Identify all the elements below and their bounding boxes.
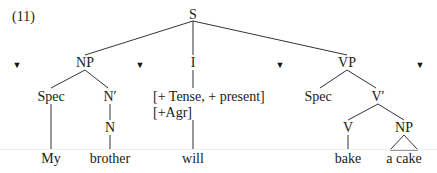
- node-i-features-line2: [+Agr]: [153, 105, 192, 120]
- syntax-tree-diagram: (11) S ▼ ▼ ▼ ▼ NP I VP Spec N′ [+ Tense,…: [0, 0, 437, 173]
- leaf-my: My: [41, 151, 60, 166]
- branch-vbar-v: [348, 104, 378, 120]
- branch-vp-spec: [320, 70, 347, 88]
- branch-np-nbar: [85, 70, 108, 88]
- node-n-bar: N′: [103, 89, 116, 104]
- example-number: (11): [12, 9, 35, 24]
- branch-s-vp: [193, 21, 347, 55]
- tree-branches: [0, 0, 437, 173]
- marker-triangle-icon: ▼: [276, 60, 285, 70]
- node-vp: VP: [338, 55, 356, 70]
- leaf-a-cake: a cake: [386, 151, 421, 166]
- node-i-features-line1: [+ Tense, + present]: [153, 89, 265, 104]
- node-vp-spec: Spec: [304, 89, 331, 104]
- marker-triangle-icon: ▼: [416, 60, 425, 70]
- node-object-np: NP: [395, 120, 413, 135]
- leaf-will: will: [182, 151, 204, 166]
- branch-vp-vbar: [347, 70, 376, 88]
- node-i: I: [191, 55, 196, 70]
- np-triangle: [390, 135, 418, 150]
- branch-s-np: [85, 21, 193, 55]
- marker-triangle-icon: ▼: [136, 60, 145, 70]
- baseline-rule: [0, 149, 437, 150]
- node-s: S: [189, 7, 197, 22]
- branch-np-spec: [51, 70, 85, 88]
- node-n: N: [105, 120, 115, 135]
- node-v: V: [343, 120, 353, 135]
- leaf-bake: bake: [335, 151, 361, 166]
- node-v-bar: V′: [371, 89, 384, 104]
- node-np: NP: [76, 55, 94, 70]
- node-np-spec: Spec: [37, 89, 64, 104]
- leaf-brother: brother: [90, 151, 130, 166]
- branch-vbar-np: [378, 104, 404, 120]
- marker-triangle-icon: ▼: [13, 60, 22, 70]
